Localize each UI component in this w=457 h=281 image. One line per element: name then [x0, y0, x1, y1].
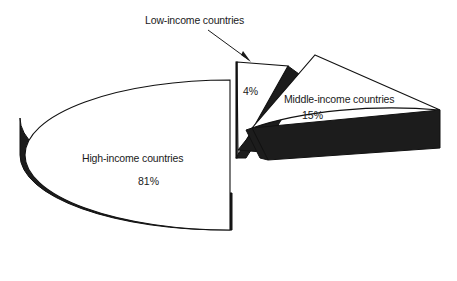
slice-low-income-left-wall [236, 62, 237, 158]
label-middle-income-name: Middle-income countries [284, 93, 394, 105]
label-high-income-value: 81% [138, 175, 159, 187]
label-high-income-name: High-income countries [82, 152, 183, 164]
low-income-leader [208, 30, 251, 62]
label-middle-income-value: 15% [302, 109, 323, 121]
label-low-income-name: Low-income countries [145, 14, 244, 26]
leader-arrowhead [241, 51, 251, 62]
label-low-income-value: 4% [243, 85, 258, 97]
pie-chart-figure: Low-income countries 4% Middle-income co… [0, 0, 457, 281]
pie-chart-svg: Low-income countries 4% Middle-income co… [0, 0, 457, 281]
